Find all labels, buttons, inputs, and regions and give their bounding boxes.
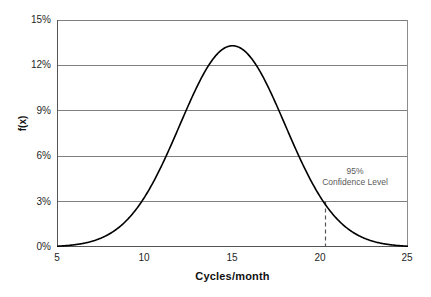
- x-tick-label-25: 25: [387, 252, 427, 264]
- y-tick-label-9: 9%: [5, 106, 51, 116]
- y-tick-label-6: 6%: [5, 151, 51, 161]
- y-tick-label-15: 15%: [5, 15, 51, 25]
- normal-distribution-chart: 15% 12% 9% 6% 3% 0%: [0, 0, 431, 297]
- x-axis-title: Cycles/month: [57, 270, 408, 282]
- plot-area: [57, 20, 408, 247]
- plot-background: [57, 20, 408, 247]
- plot-svg: [57, 20, 408, 247]
- y-tick-label-12: 12%: [5, 60, 51, 70]
- confidence-level-annotation: 95% Confidence Level: [305, 166, 405, 188]
- x-tick-label-20: 20: [300, 252, 340, 264]
- y-axis-title: f(x): [17, 104, 28, 144]
- y-tick-label-3: 3%: [5, 197, 51, 207]
- confidence-percent-label: 95%: [305, 166, 405, 177]
- x-tick-label-10: 10: [124, 252, 164, 264]
- x-tick-label-5: 5: [37, 252, 77, 264]
- x-axis-tick-labels: 5 10 15 20 25: [0, 252, 431, 268]
- y-tick-label-0: 0%: [5, 242, 51, 252]
- confidence-level-label: Confidence Level: [305, 177, 405, 188]
- x-tick-label-15: 15: [212, 252, 252, 264]
